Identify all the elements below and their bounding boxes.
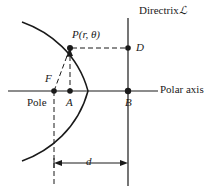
- point-label-B: B: [125, 97, 132, 108]
- point-label-D: D: [136, 42, 144, 53]
- dimension-arrow-left: [54, 160, 62, 166]
- point-marker-F: [51, 88, 57, 94]
- point-label-P: P(r, θ): [72, 29, 100, 40]
- directrix-label: Directrixℒ: [139, 5, 187, 16]
- point-marker-A: [67, 88, 73, 94]
- conic-diagram-figure: Directrixℒ P(r, θ) D F Pole A B Polar ax…: [0, 0, 222, 193]
- distance-label-d: d: [86, 156, 92, 167]
- point-marker-D: [125, 45, 131, 51]
- directrix-label-text: Directrix: [139, 4, 179, 16]
- directrix-symbol: ℒ: [179, 4, 187, 16]
- pole-label: Pole: [27, 97, 47, 108]
- point-label-F: F: [45, 73, 52, 84]
- point-label-A: A: [66, 97, 73, 108]
- polar-axis-label: Polar axis: [160, 84, 204, 95]
- dimension-arrow-right: [120, 160, 128, 166]
- point-marker-B: [125, 88, 131, 94]
